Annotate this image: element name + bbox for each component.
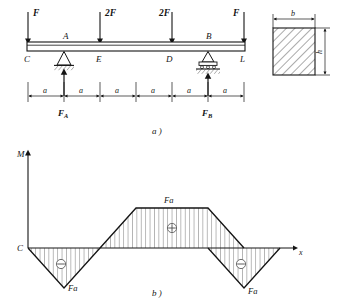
applied-loads: F 2F 2F F — [28, 8, 244, 42]
load-2F-mid-right: 2F — [158, 8, 172, 42]
cross-section-height-label: h — [315, 50, 324, 54]
annotation-mid-Fa: Fa — [163, 195, 173, 205]
node-label-E: E — [95, 54, 102, 64]
moment-diagram: M x C Fa — [16, 149, 303, 298]
moment-region-middle-positive: Fa — [100, 195, 244, 248]
beam-body — [27, 42, 245, 51]
cross-section-width-label: b — [291, 9, 295, 18]
node-label-L: L — [239, 54, 245, 64]
node-label-C: C — [24, 54, 31, 64]
dimension-label-a-4: a — [151, 86, 155, 95]
dimension-chain: a a a a a a — [28, 82, 244, 102]
support-roller-B — [196, 52, 220, 74]
moment-origin-label-C: C — [17, 243, 24, 253]
axis-label-M: M — [16, 149, 25, 159]
dimension-label-a-6: a — [223, 86, 227, 95]
load-label-2F-mid-right: 2F — [158, 8, 171, 18]
reaction-FB: FB — [201, 75, 213, 119]
support-pin-A — [54, 52, 74, 71]
load-label-2F-mid-left: 2F — [104, 8, 117, 18]
dimension-label-a-3: a — [115, 86, 119, 95]
moment-region-left-negative: Fa — [28, 248, 100, 293]
node-label-A: A — [62, 31, 69, 41]
moment-region-right-negative: Fa — [208, 248, 280, 296]
sign-minus-right — [236, 259, 245, 268]
cross-section: b h — [273, 9, 330, 75]
load-label-F-right: F — [232, 8, 240, 18]
caption-a: a ) — [152, 126, 162, 136]
reaction-FA: FA — [57, 71, 68, 119]
reaction-forces: FA FB — [57, 71, 213, 119]
beam-assembly: F 2F 2F F — [24, 8, 245, 136]
dimension-label-a-2: a — [79, 86, 83, 95]
load-label-F-left: F — [32, 8, 40, 18]
dimension-label-a-5: a — [187, 86, 191, 95]
figure-root: F 2F 2F F — [0, 0, 338, 299]
reaction-label-FB: FB — [201, 108, 213, 119]
sign-plus-middle — [167, 223, 176, 232]
reaction-label-FA: FA — [57, 108, 68, 119]
node-label-B: B — [206, 31, 212, 41]
node-label-D: D — [165, 54, 173, 64]
load-2F-mid-left: 2F — [100, 8, 117, 42]
sign-minus-left — [56, 259, 65, 268]
axis-label-x: x — [298, 248, 303, 257]
caption-b: b ) — [152, 288, 162, 298]
cross-section-rect — [273, 28, 315, 75]
load-F-right: F — [232, 8, 244, 42]
annotation-left-Fa: Fa — [67, 283, 77, 293]
engineering-figure: F 2F 2F F — [0, 0, 338, 299]
dimension-label-a-1: a — [43, 86, 47, 95]
load-F-left: F — [28, 8, 40, 42]
annotation-right-Fa: Fa — [247, 286, 257, 296]
